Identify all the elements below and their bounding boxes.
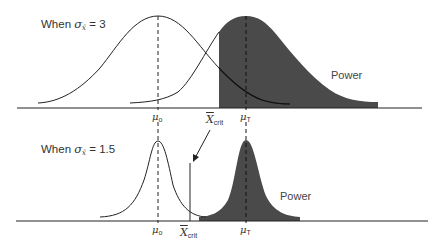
bottom-xcrit-label: Xcrit — [180, 227, 197, 239]
top-alt-curve — [130, 32, 219, 103]
xcrit-arrow — [195, 130, 210, 158]
bottom-mu0-label: μo — [152, 224, 162, 236]
bottom-power-label: Power — [280, 191, 311, 202]
power-diagram: When σx̄ = 3 Power μo μT Xcrit When σx̄ … — [0, 0, 441, 247]
top-muT-label: μT — [240, 111, 251, 123]
top-panel-title: When σx̄ = 3 — [41, 19, 106, 32]
top-mu0-label: μo — [152, 111, 162, 123]
xcrit-arrow-label: Xcrit — [206, 114, 223, 126]
bottom-power-area — [199, 140, 300, 221]
top-power-label: Power — [331, 70, 362, 81]
bottom-panel-title: When σx̄ = 1.5 — [41, 144, 115, 157]
bottom-muT-label: μT — [240, 224, 251, 236]
top-power-area — [219, 16, 378, 108]
